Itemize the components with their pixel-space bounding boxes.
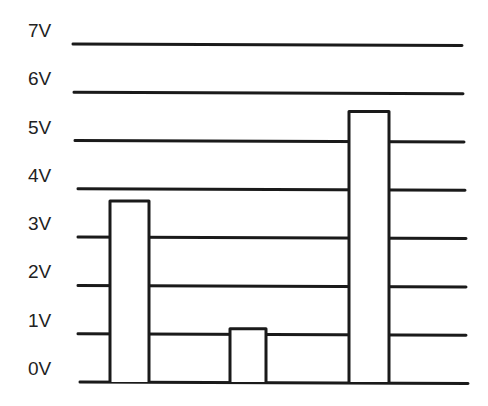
gridline-5V xyxy=(75,141,464,143)
y-tick-label: 6V xyxy=(28,68,52,89)
y-tick-labels: 0V1V2V3V4V5V6V7V xyxy=(28,20,52,379)
gridline-0V xyxy=(80,382,468,384)
y-tick-label: 2V xyxy=(28,261,52,282)
bar-1 xyxy=(110,201,149,382)
gridline-6V xyxy=(74,92,463,94)
y-tick-label: 4V xyxy=(28,165,52,186)
gridline-4V xyxy=(78,189,465,191)
bar-chart: 0V1V2V3V4V5V6V7V xyxy=(0,0,488,406)
y-tick-label: 0V xyxy=(28,358,52,379)
gridline-7V xyxy=(73,44,462,46)
y-tick-label: 5V xyxy=(28,117,52,138)
bar-2 xyxy=(230,329,266,382)
y-tick-label: 3V xyxy=(28,213,52,234)
bars xyxy=(110,112,389,382)
bar-3 xyxy=(349,112,389,382)
y-tick-label: 7V xyxy=(28,20,52,41)
y-tick-label: 1V xyxy=(28,310,52,331)
